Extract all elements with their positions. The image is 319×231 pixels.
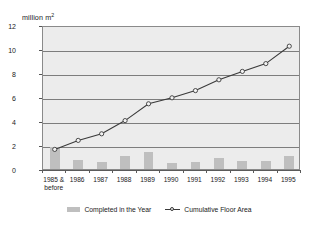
plot-area (42, 26, 300, 170)
x-tick-label-line1: 1991 (187, 176, 202, 183)
x-tick-mark-7 (206, 170, 207, 173)
x-tick-label-1990: 1990 (164, 176, 179, 184)
x-tick-label-line1: 1992 (211, 176, 226, 183)
bar-swatch-icon (67, 207, 80, 212)
x-tick-label-line1: 1988 (117, 176, 132, 183)
cumulative-line-markers (53, 44, 292, 151)
x-tick-label-1987: 1987 (93, 176, 108, 184)
line-series-cumulative-floor-area (43, 27, 301, 171)
chart-legend: Completed in the Year Cumulative Floor A… (0, 206, 319, 213)
x-tick-mark-0 (42, 170, 43, 173)
x-tick-label-1986: 1986 (70, 176, 85, 184)
y-tick-label-4: 4 (0, 119, 16, 126)
y-tick-label-10: 10 (0, 47, 16, 54)
y-axis-title: million m2 (22, 13, 54, 22)
x-tick-label-1995: 1995 (281, 176, 296, 184)
legend-item-cumulative-floor-area: Cumulative Floor Area (165, 206, 251, 213)
line-marker-1991 (193, 89, 197, 93)
y-axis-title-superscript: 2 (51, 12, 54, 18)
y-tick-label-6: 6 (0, 95, 16, 102)
legend-item-completed-in-the-year: Completed in the Year (67, 206, 151, 213)
x-tick-label-line1: 1985 & (43, 176, 64, 183)
y-tick-mark-4 (39, 122, 42, 123)
x-tick-label-1988: 1988 (117, 176, 132, 184)
line-marker-swatch-icon (165, 206, 180, 213)
x-tick-label-line1: 1989 (140, 176, 155, 183)
x-tick-mark-5 (159, 170, 160, 173)
x-tick-label-1985-before: 1985 &before (43, 176, 64, 192)
y-tick-label-12: 12 (0, 23, 16, 30)
y-tick-label-8: 8 (0, 71, 16, 78)
y-tick-mark-6 (39, 98, 42, 99)
x-axis-line (42, 170, 300, 171)
x-tick-mark-8 (230, 170, 231, 173)
x-tick-mark-9 (253, 170, 254, 173)
line-marker-1987 (100, 132, 104, 136)
legend-label-completed-in-the-year: Completed in the Year (84, 206, 151, 213)
x-tick-label-line2: before (43, 184, 64, 192)
y-tick-mark-12 (39, 26, 42, 27)
y-tick-mark-8 (39, 74, 42, 75)
x-tick-label-1994: 1994 (257, 176, 272, 184)
line-marker-1988 (123, 119, 127, 123)
y-axis-title-text: million m (22, 13, 51, 22)
x-tick-label-1992: 1992 (211, 176, 226, 184)
y-tick-label-2: 2 (0, 143, 16, 150)
line-marker-1992 (217, 78, 221, 82)
x-tick-mark-3 (112, 170, 113, 173)
x-tick-mark-4 (136, 170, 137, 173)
y-tick-label-0: 0 (0, 167, 16, 174)
x-tick-label-line1: 1987 (93, 176, 108, 183)
line-marker-1990 (170, 96, 174, 100)
x-tick-mark-2 (89, 170, 90, 173)
x-tick-label-1991: 1991 (187, 176, 202, 184)
line-marker-1995 (287, 44, 291, 48)
x-tick-label-1989: 1989 (140, 176, 155, 184)
line-marker-1994 (264, 62, 268, 66)
x-tick-label-line1: 1993 (234, 176, 249, 183)
line-marker-1989 (146, 102, 150, 106)
line-marker-1986 (76, 138, 80, 142)
y-tick-mark-2 (39, 146, 42, 147)
y-tick-mark-10 (39, 50, 42, 51)
x-tick-label-line1: 1990 (164, 176, 179, 183)
x-tick-mark-10 (277, 170, 278, 173)
x-tick-mark-11 (300, 170, 301, 173)
line-marker-1993 (240, 69, 244, 73)
x-tick-label-1993: 1993 (234, 176, 249, 184)
x-tick-label-line1: 1995 (281, 176, 296, 183)
x-tick-label-line1: 1994 (257, 176, 272, 183)
line-marker-1985-before (53, 147, 57, 151)
legend-label-cumulative-floor-area: Cumulative Floor Area (184, 206, 251, 213)
x-tick-mark-6 (183, 170, 184, 173)
x-tick-label-line1: 1986 (70, 176, 85, 183)
x-tick-mark-1 (65, 170, 66, 173)
plot-area-wrapper (42, 26, 300, 170)
floor-area-chart: million m2 024681012 1985 &before1986198… (0, 0, 319, 231)
